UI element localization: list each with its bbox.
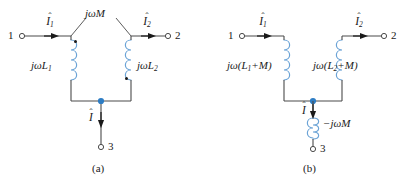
center-node-dot-a bbox=[98, 98, 104, 104]
terminal-3-marker-a bbox=[98, 144, 103, 149]
inductor-l2-label-a: jωL2 bbox=[137, 60, 158, 72]
phasor-hat-icon: ̂ bbox=[351, 12, 367, 21]
current-label-i2-a: ̂I2 bbox=[139, 16, 155, 28]
terminal-3-marker-b bbox=[310, 146, 315, 151]
circuit-a-drawing bbox=[0, 0, 408, 181]
current-label-i-b: ̂I bbox=[299, 105, 309, 117]
phasor-hat-icon: ̂ bbox=[42, 12, 58, 21]
polarity-dot-left-a bbox=[74, 40, 77, 43]
phasor-hat-icon: ̂ bbox=[299, 101, 309, 110]
inductor-left-label-b: jω(L1+M) bbox=[227, 60, 272, 72]
terminal-2-label-a: 2 bbox=[175, 30, 181, 41]
inductor-l2-coil-a bbox=[125, 40, 131, 80]
inductor-right-label-b: jω(L2+M) bbox=[313, 60, 358, 72]
inductor-bottom-label-b: −jωM bbox=[323, 118, 350, 129]
current-label-i1-b: ̂I1 bbox=[255, 16, 271, 28]
terminal-3-label-b: 3 bbox=[320, 143, 326, 154]
caption-a: (a) bbox=[92, 163, 104, 174]
current-label-i-a: ̂I bbox=[86, 112, 96, 124]
terminal-3-label-a: 3 bbox=[108, 141, 114, 152]
inductor-left-coil-b bbox=[284, 40, 290, 80]
mutual-inductance-label-a: jωM bbox=[85, 8, 105, 19]
inductor-bottom-coil-b bbox=[307, 118, 313, 138]
phasor-hat-icon: ̂ bbox=[139, 12, 155, 21]
mutual-coupling-line-left-a bbox=[71, 18, 86, 36]
inductor-l1-label-a: jωL1 bbox=[31, 60, 52, 72]
current-label-i2-b: ̂I2 bbox=[351, 16, 367, 28]
figure-root: 1 2 3 ̂I1 ̂I2 ̂I jωM jωL1 jωL2 (a) 1 2 3… bbox=[0, 0, 408, 181]
inductor-bottom-coil-visual-b bbox=[313, 118, 319, 139]
terminal-2-label-b: 2 bbox=[391, 30, 397, 41]
inductor-l1-coil-a bbox=[71, 40, 77, 80]
terminal-2-marker-a bbox=[165, 33, 170, 38]
mutual-coupling-line-right-a bbox=[116, 18, 131, 36]
polarity-dot-right-a bbox=[125, 77, 128, 80]
phasor-hat-icon: ̂ bbox=[255, 12, 271, 21]
terminal-2-marker-b bbox=[381, 33, 386, 38]
caption-b: (b) bbox=[303, 163, 316, 174]
phasor-hat-icon: ̂ bbox=[86, 108, 96, 117]
terminal-1-marker-a bbox=[19, 33, 24, 38]
terminal-1-label-a: 1 bbox=[8, 30, 14, 41]
current-label-i1-a: ̂I1 bbox=[42, 16, 58, 28]
terminal-1-marker-b bbox=[239, 33, 244, 38]
terminal-1-label-b: 1 bbox=[228, 30, 234, 41]
